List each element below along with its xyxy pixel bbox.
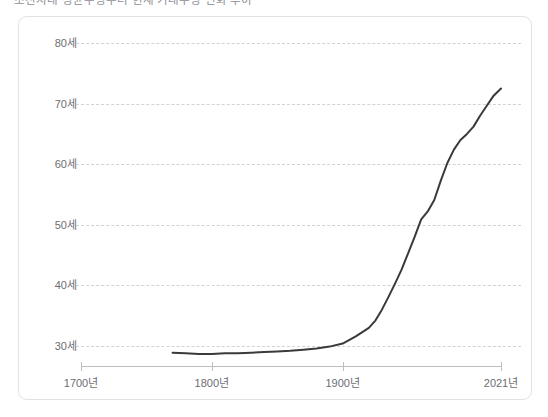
x-axis-label: 2021년 [484,376,518,390]
series-line-life-expectancy [173,88,501,353]
x-axis-tick [81,362,82,371]
chart-title: 조선시대 평균수명부터 현재 기대수명 변화 추이 [14,0,534,7]
life-expectancy-line-chart [19,17,533,401]
plot-area: 80세70세60세50세40세30세 [19,17,533,401]
x-axis-label: 1800년 [195,376,229,390]
x-axis-label: 1900년 [325,376,359,390]
chart-card: 80세70세60세50세40세30세 1700년1800년1900년2021년 [18,16,532,400]
x-axis-tick [343,362,344,371]
x-axis-label: 1700년 [64,376,98,390]
x-axis-tick [212,362,213,371]
x-axis-tick [501,362,502,371]
x-axis-line [81,366,501,367]
x-axis: 1700년1800년1900년2021년 [19,366,533,401]
